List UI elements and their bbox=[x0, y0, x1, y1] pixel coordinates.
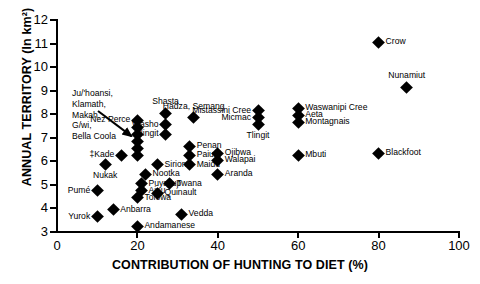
callout-line: G/wi, bbox=[72, 120, 116, 131]
data-point-marker bbox=[400, 81, 413, 94]
data-point-label: Tlingit bbox=[136, 130, 159, 139]
x-tick-label: 80 bbox=[359, 238, 399, 253]
data-point-label: Mistassini Cree bbox=[192, 106, 251, 115]
y-tick bbox=[50, 137, 57, 139]
data-point-label: Vedda bbox=[189, 210, 213, 219]
data-point-marker bbox=[372, 36, 385, 49]
x-tick-label: 40 bbox=[198, 238, 238, 253]
data-point-label: Nukak bbox=[93, 171, 117, 180]
y-tick bbox=[50, 231, 57, 233]
y-tick bbox=[50, 113, 57, 115]
plot-area: YurokPuméNukakAnbarra‡KadeNez PerceTolow… bbox=[57, 20, 459, 232]
data-point-marker bbox=[115, 149, 128, 162]
data-point-label: Waswanipi Cree bbox=[305, 104, 367, 113]
data-point-marker bbox=[372, 147, 385, 160]
data-point-label: Washo bbox=[132, 120, 158, 129]
y-axis-title: ANNUAL TERRITORY (ln km²) bbox=[20, 0, 34, 212]
data-point-label: Blackfoot bbox=[386, 148, 421, 157]
data-point-label: Crow bbox=[386, 38, 406, 47]
callout-line: Ju/'hoansi, bbox=[72, 88, 116, 99]
data-point-label: Aranda bbox=[225, 170, 253, 179]
callout-line: Bella Coola bbox=[72, 131, 116, 142]
data-point-marker bbox=[211, 168, 224, 181]
data-point-marker bbox=[183, 140, 196, 153]
x-tick-label: 0 bbox=[37, 238, 77, 253]
y-tick bbox=[50, 43, 57, 45]
data-point-marker bbox=[175, 208, 188, 221]
x-tick-label: 60 bbox=[278, 238, 318, 253]
data-point-label: Mbuti bbox=[305, 151, 326, 160]
data-point-marker bbox=[292, 149, 305, 162]
y-tick bbox=[50, 184, 57, 186]
y-tick-label: 3 bbox=[14, 224, 48, 239]
data-point-marker bbox=[159, 118, 172, 131]
data-point-label: Andamanese bbox=[144, 221, 195, 230]
data-point-marker bbox=[91, 184, 104, 197]
x-tick-label: 100 bbox=[439, 238, 479, 253]
x-tick-label: 20 bbox=[117, 238, 157, 253]
y-tick bbox=[50, 66, 57, 68]
data-point-label: Ojibwa bbox=[225, 148, 251, 157]
data-point-label: Nunamiut bbox=[388, 71, 425, 80]
y-tick bbox=[50, 160, 57, 162]
data-point-marker bbox=[91, 210, 104, 223]
callout-line: Klamath, bbox=[72, 99, 116, 110]
data-point-label: Pumé bbox=[68, 186, 90, 195]
data-point-marker bbox=[107, 203, 120, 216]
data-point-label: Tlingit bbox=[247, 131, 270, 140]
data-point-label: Anbarra bbox=[120, 205, 151, 214]
callout-annotation: Ju/'hoansi,Klamath,Makah,G/wi,Bella Cool… bbox=[72, 88, 116, 142]
callout-line: Makah, bbox=[72, 110, 116, 121]
data-point-label: Twana bbox=[177, 179, 202, 188]
y-tick bbox=[50, 90, 57, 92]
data-point-label: Yurok bbox=[68, 212, 90, 221]
y-tick bbox=[50, 19, 57, 21]
data-point-marker bbox=[131, 220, 144, 233]
data-point-label: ‡Kade bbox=[89, 151, 114, 160]
scatter-chart: 3456789101112020406080100 ANNUAL TERRITO… bbox=[0, 0, 480, 284]
x-axis-title: CONTRIBUTION OF HUNTING TO DIET (%) bbox=[0, 258, 480, 272]
y-tick bbox=[50, 207, 57, 209]
